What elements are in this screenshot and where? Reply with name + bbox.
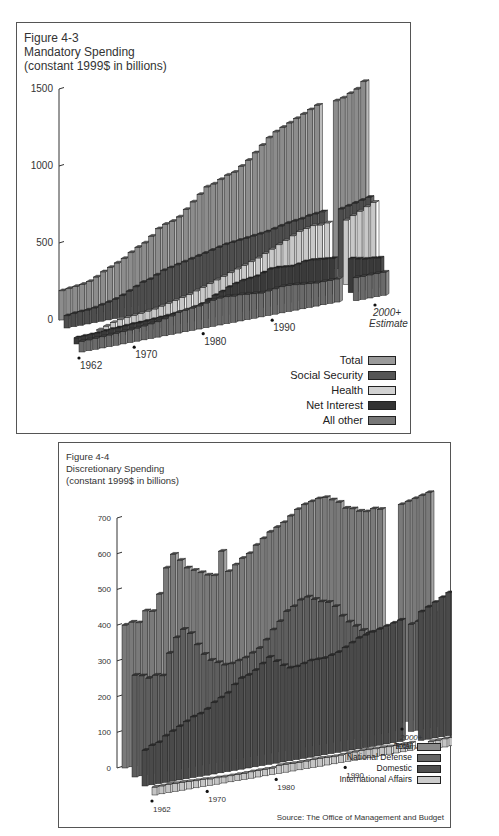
svg-text:1980: 1980	[277, 783, 295, 792]
svg-text:1962: 1962	[153, 805, 171, 814]
legend-item-health: Health	[290, 383, 396, 398]
legend-swatch	[417, 765, 441, 773]
legend-label: Total	[340, 353, 363, 368]
svg-text:700: 700	[98, 514, 112, 523]
svg-text:500: 500	[98, 585, 112, 594]
legend-swatch	[417, 743, 441, 751]
legend-swatch	[417, 776, 441, 784]
svg-text:Estimate: Estimate	[369, 318, 408, 329]
source-note: Source: The Office of Management and Bud…	[277, 813, 444, 822]
legend-label: National Defense	[347, 752, 412, 763]
legend-label: Net Interest	[306, 398, 363, 413]
svg-text:300: 300	[98, 657, 112, 666]
legend-item-all-other: All other	[290, 413, 396, 428]
legend-item-net-interest: Net Interest	[290, 398, 396, 413]
figure-4-3-panel: Figure 4-3 Mandatory Spending (constant …	[16, 22, 411, 434]
svg-text:200: 200	[98, 693, 112, 702]
legend-item-social-security: Social Security	[290, 368, 396, 383]
svg-text:0: 0	[107, 764, 112, 773]
legend-label: Total	[394, 741, 412, 752]
svg-text:100: 100	[98, 728, 112, 737]
svg-text:1500: 1500	[31, 83, 54, 94]
legend-label: Domestic	[377, 763, 412, 774]
legend-label: International Affairs	[339, 774, 412, 785]
legend-swatch	[417, 754, 441, 762]
legend-item-total: Total	[339, 741, 441, 752]
legend-swatch	[368, 356, 396, 365]
svg-text:2000+: 2000+	[372, 307, 401, 318]
chart-legend: Total Social Security Health Net Interes…	[290, 353, 396, 428]
legend-swatch	[368, 371, 396, 380]
svg-text:500: 500	[36, 237, 53, 248]
legend-label: All other	[323, 413, 363, 428]
svg-text:1980: 1980	[204, 336, 227, 347]
legend-item-international-affairs: International Affairs	[339, 774, 441, 785]
svg-text:400: 400	[98, 621, 112, 630]
legend-swatch	[368, 386, 396, 395]
legend-item-national-defense: National Defense	[339, 752, 441, 763]
svg-text:1000: 1000	[31, 160, 54, 171]
legend-swatch	[368, 401, 396, 410]
svg-text:1990: 1990	[273, 322, 296, 333]
legend-item-domestic: Domestic	[339, 763, 441, 774]
chart-legend: Total National Defense Domestic Internat…	[339, 741, 441, 785]
legend-label: Health	[331, 383, 363, 398]
figure-4-4-panel: Figure 4-4 Discretionary Spending (const…	[58, 442, 451, 828]
svg-text:1962: 1962	[80, 360, 103, 371]
svg-text:1970: 1970	[135, 349, 158, 360]
legend-label: Social Security	[290, 368, 363, 383]
svg-text:0: 0	[47, 314, 53, 325]
svg-text:600: 600	[98, 550, 112, 559]
legend-item-total: Total	[290, 353, 396, 368]
legend-swatch	[368, 416, 396, 425]
svg-text:1970: 1970	[208, 795, 226, 804]
